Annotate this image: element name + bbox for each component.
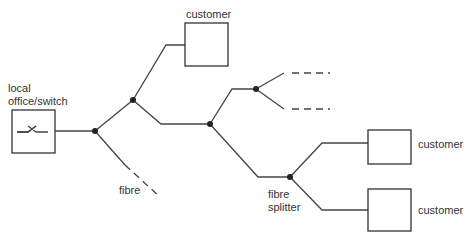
fibre-link	[95, 100, 133, 131]
customer-box-right-lower	[368, 189, 411, 231]
customer-box-top	[185, 23, 228, 66]
splitter-label-1: fibre	[268, 188, 289, 201]
fibre-link	[95, 131, 125, 165]
fibre-link	[290, 143, 368, 177]
local-office-label: local	[8, 82, 31, 95]
splitter-label-2: splitter	[268, 201, 300, 214]
node-1	[92, 128, 98, 134]
fibre-link	[256, 73, 284, 89]
local-office-label-2: office/switch	[8, 95, 68, 108]
customer-box-right-upper	[368, 130, 411, 164]
switch-symbol	[17, 126, 36, 132]
fibre-link	[210, 124, 290, 177]
fibre-link	[133, 100, 210, 124]
network-diagram	[0, 0, 474, 242]
fibre-link	[290, 177, 368, 210]
node-3	[207, 121, 213, 127]
node-4	[253, 86, 259, 92]
node-2	[130, 97, 136, 103]
fibre-link	[210, 89, 256, 124]
customer-label-top: customer	[186, 8, 231, 21]
switch-icon	[17, 126, 48, 132]
customer-label-right-upper: customer	[418, 138, 463, 151]
fibre-link	[133, 45, 185, 100]
splitter-node	[287, 174, 293, 180]
fibre-link	[256, 89, 284, 109]
customer-label-right-lower: customer	[418, 204, 463, 217]
fibre-label: fibre	[119, 184, 140, 197]
